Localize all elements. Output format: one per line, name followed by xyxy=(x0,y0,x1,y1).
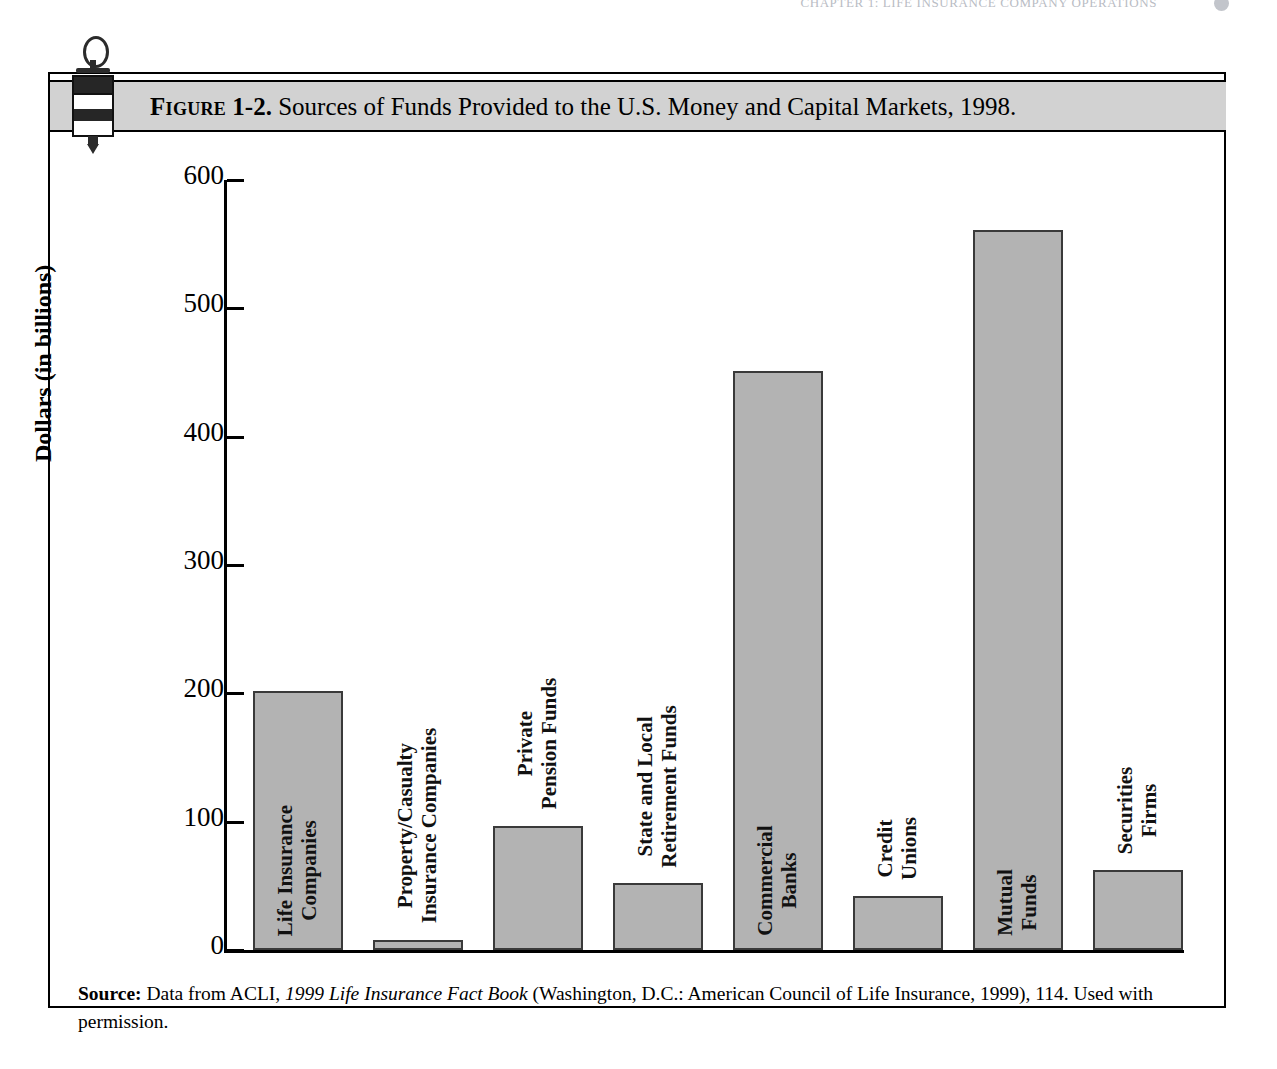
bar-label-line1: Private xyxy=(513,711,537,776)
stamp-cap-icon xyxy=(76,68,110,73)
bar-label-line2: Unions xyxy=(897,817,921,880)
bar[interactable] xyxy=(373,940,463,950)
stamp-band-dark-icon xyxy=(72,75,114,95)
bar-slot: Life InsuranceCompanies xyxy=(239,180,357,950)
bar-label-line2: Companies xyxy=(297,820,321,920)
bar-label-line1: Property/Casualty xyxy=(393,743,417,908)
y-axis-tick-label: 200 xyxy=(140,675,224,702)
bar-label-line2: Pension Funds xyxy=(537,678,561,809)
bar-slot: MutualFunds xyxy=(959,180,1077,950)
figure-number: 1-2. xyxy=(232,93,272,120)
figure-label-word: Figure xyxy=(150,93,226,120)
bar-label-line2: Insurance Companies xyxy=(417,728,441,923)
bar-label: MutualFunds xyxy=(994,869,1041,936)
source-label: Source: xyxy=(78,983,142,1004)
y-axis-ticks: 0100200300400500600 xyxy=(128,132,224,972)
stamp-band-dark-mid-icon xyxy=(72,109,114,121)
bar-label: SecuritiesFirms xyxy=(1114,767,1161,854)
bar-slot: CommercialBanks xyxy=(719,180,837,950)
bar[interactable] xyxy=(973,230,1063,950)
bar-slot: CreditUnions xyxy=(839,180,957,950)
bar-label-line1: Credit xyxy=(873,820,897,878)
y-axis-title: Dollars (in billions) xyxy=(30,162,57,462)
bar-slot: SecuritiesFirms xyxy=(1079,180,1197,950)
source-italic-title: 1999 Life Insurance Fact Book xyxy=(285,983,528,1004)
stamp-band-light-icon xyxy=(72,95,114,109)
y-axis-tick-label: 100 xyxy=(140,804,224,831)
y-axis-tick-label: 0 xyxy=(140,932,224,959)
bar-slot: PrivatePension Funds xyxy=(479,180,597,950)
bar-label-line2: Banks xyxy=(777,853,801,909)
bar-label: CreditUnions xyxy=(874,817,921,880)
bar-label-line1: State and Local xyxy=(633,716,657,856)
bar-label-line1: Life Insurance xyxy=(273,805,297,936)
figure-caption: Sources of Funds Provided to the U.S. Mo… xyxy=(278,93,1016,120)
stamp-ring-icon xyxy=(83,36,109,68)
bar-label-line1: Commercial xyxy=(753,826,777,936)
bar-label-line2: Retirement Funds xyxy=(657,705,681,867)
page-number-badge xyxy=(1214,0,1229,11)
y-axis-tick-label: 400 xyxy=(140,419,224,446)
bar-series: Life InsuranceCompaniesProperty/Casualty… xyxy=(227,180,1184,950)
bar-label: PrivatePension Funds xyxy=(514,678,561,809)
y-axis-tick-label: 500 xyxy=(140,290,224,317)
bar[interactable] xyxy=(613,883,703,950)
bar-label-line1: Securities xyxy=(1113,767,1137,854)
running-head-text: CHAPTER 1: LIFE INSURANCE COMPANY OPERAT… xyxy=(800,0,1157,11)
bar-label-line2: Funds xyxy=(1017,875,1041,931)
chart-plot-area: Dollars (in billions) 010020030040050060… xyxy=(48,132,1226,972)
bar-label: Property/CasualtyInsurance Companies xyxy=(394,728,441,923)
x-axis-line xyxy=(224,950,1184,953)
bar-slot: Property/CasualtyInsurance Companies xyxy=(359,180,477,950)
bar-label: Life InsuranceCompanies xyxy=(274,805,321,936)
running-head: CHAPTER 1: LIFE INSURANCE COMPANY OPERAT… xyxy=(0,0,1277,16)
bar-label-line2: Firms xyxy=(1137,784,1161,838)
bar[interactable] xyxy=(493,826,583,950)
figure-title: Figure 1-2. Sources of Funds Provided to… xyxy=(150,94,1016,119)
bar-label: CommercialBanks xyxy=(754,826,801,936)
source-text-before: Data from ACLI, xyxy=(142,983,286,1004)
figure-title-band: Figure 1-2. Sources of Funds Provided to… xyxy=(50,80,1226,132)
bar-label-line1: Mutual xyxy=(993,869,1017,936)
bar-slot: State and LocalRetirement Funds xyxy=(599,180,717,950)
bar[interactable] xyxy=(1093,870,1183,950)
y-axis-tick-label: 600 xyxy=(140,162,224,189)
bar-label: State and LocalRetirement Funds xyxy=(634,705,681,867)
bar[interactable] xyxy=(853,896,943,950)
source-note: Source: Data from ACLI, 1999 Life Insura… xyxy=(78,980,1198,1037)
y-axis-tick-label: 300 xyxy=(140,547,224,574)
